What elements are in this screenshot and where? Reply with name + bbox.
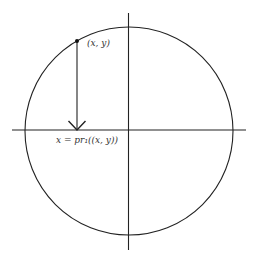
projection-diagram: (x, y) x = pr₁((x, y)): [0, 0, 256, 257]
projection-label: x = pr₁((x, y)): [56, 135, 118, 145]
point-xy: [75, 39, 79, 43]
point-label: (x, y): [87, 38, 110, 48]
